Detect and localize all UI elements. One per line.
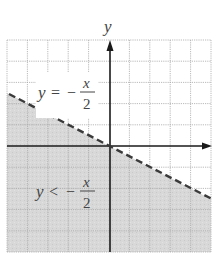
y-axis-label: y (102, 17, 112, 36)
svg-text:2: 2 (83, 96, 91, 112)
svg-text:2: 2 (83, 195, 91, 211)
svg-text:=: = (51, 84, 60, 101)
y-axis-arrow-icon (107, 40, 114, 51)
inequality-graph: y y = − x 2 y < − x 2 (0, 0, 218, 257)
svg-text:y: y (36, 83, 46, 102)
svg-text:y: y (34, 182, 44, 201)
x-axis-arrow-icon (202, 143, 212, 150)
svg-text:−: − (67, 84, 76, 101)
svg-text:x: x (82, 75, 90, 91)
svg-text:<: < (49, 183, 58, 200)
boundary-equation-label: y = − x 2 (36, 72, 98, 118)
svg-text:x: x (82, 174, 90, 190)
svg-text:−: − (66, 183, 75, 200)
